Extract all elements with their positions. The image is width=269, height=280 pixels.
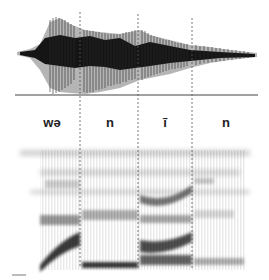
waveform-spectrogram-svg xyxy=(0,0,269,280)
segment-label-we: wə xyxy=(43,115,60,130)
segment-label-n2: n xyxy=(222,115,230,130)
caption-fragment xyxy=(12,274,26,276)
spectrogram xyxy=(20,150,250,272)
segment-label-i-nasal: ĩ xyxy=(163,115,167,130)
speech-figure: wə n ĩ n xyxy=(0,0,269,280)
waveform xyxy=(17,17,257,94)
segment-label-n1: n xyxy=(106,115,114,130)
